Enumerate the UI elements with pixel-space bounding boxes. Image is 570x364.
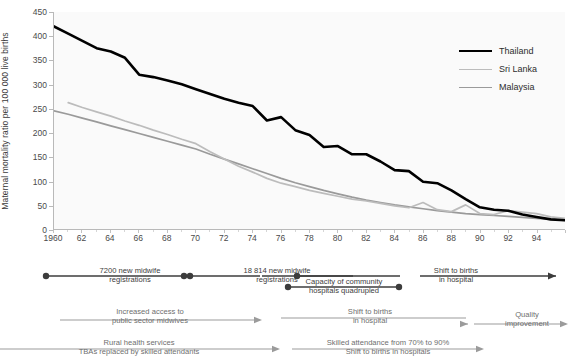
x-tick-mark — [352, 230, 353, 232]
y-tick-label: 50 — [13, 202, 47, 210]
legend-label-sri-lanka: Sri Lanka — [499, 64, 537, 74]
y-axis-label: Maternal mortality ratio per 100 000 liv… — [0, 12, 12, 230]
x-tick-mark — [494, 230, 495, 232]
x-tick-label: 94 — [517, 234, 557, 243]
y-tick-label: 300 — [13, 81, 47, 89]
x-tick-mark — [465, 230, 466, 232]
y-tick-label: 200 — [13, 129, 47, 137]
annotation-1-4: Shift to birthsin hospital — [406, 266, 506, 284]
x-tick-mark — [295, 230, 296, 232]
legend-swatch-malaysia — [459, 87, 492, 88]
annotation-1-1: 7200 new midwiferegistrations — [70, 266, 190, 284]
annotation-row-3: Rural health servicesTBAs replaced by sk… — [0, 334, 570, 364]
annotation-1-3: Capacity of communityhospitals quadruple… — [288, 277, 400, 295]
x-tick-mark — [153, 230, 154, 232]
x-tick-mark — [124, 230, 125, 232]
annotation-2-1: Increased access topublic sector midwive… — [80, 307, 220, 325]
legend-label-malaysia: Malaysia — [499, 82, 535, 92]
legend-item-thailand: Thailand — [459, 42, 537, 60]
x-tick-mark — [409, 230, 410, 232]
y-tick-label: 250 — [13, 105, 47, 113]
y-tick-label: 100 — [13, 178, 47, 186]
series-line-malaysia — [54, 111, 565, 220]
legend-item-sri-lanka: Sri Lanka — [459, 60, 537, 78]
x-tick-mark — [238, 230, 239, 232]
x-tick-mark — [380, 230, 381, 232]
x-tick-mark — [181, 230, 182, 232]
x-tick-mark — [323, 230, 324, 232]
x-tick-mark — [209, 230, 210, 232]
annotation-2-3: Qualityimprovement — [490, 310, 564, 328]
y-tick-label: 400 — [13, 32, 47, 40]
x-tick-mark — [565, 230, 566, 233]
legend-item-malaysia: Malaysia — [459, 78, 537, 96]
annotation-2-2: Shift to birthsin hospital — [320, 307, 420, 325]
y-tick-label: 350 — [13, 56, 47, 64]
legend-swatch-sri-lanka — [459, 69, 492, 70]
x-tick-mark — [437, 230, 438, 232]
y-tick-label: 150 — [13, 153, 47, 161]
x-tick-mark — [266, 230, 267, 232]
annotation-row-2: Increased access topublic sector midwive… — [0, 304, 570, 332]
x-tick-mark — [96, 230, 97, 232]
chart-container: Maternal mortality ratio per 100 000 liv… — [0, 0, 570, 258]
annotation-row-1: 7200 new midwiferegistrations 18 814 new… — [0, 262, 570, 298]
annotation-3-1: Rural health servicesTBAs replaced by sk… — [24, 338, 254, 356]
annotation-3-2: Skilled attendance from 70% to 90%Shift … — [300, 338, 476, 356]
x-tick-mark — [522, 230, 523, 232]
legend-swatch-thailand — [459, 50, 492, 52]
y-tick-label: 0 — [13, 226, 47, 234]
chart-legend: Thailand Sri Lanka Malaysia — [459, 42, 537, 96]
x-tick-mark — [67, 230, 68, 232]
y-tick-label: 450 — [13, 8, 47, 16]
series-line-sri-lanka — [68, 103, 565, 219]
legend-label-thailand: Thailand — [499, 46, 534, 56]
chart-page: Maternal mortality ratio per 100 000 liv… — [0, 0, 570, 364]
x-tick-mark — [551, 230, 552, 232]
